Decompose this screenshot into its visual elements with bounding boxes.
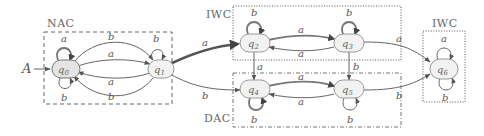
- state-q0: q0: [52, 60, 80, 78]
- svg-text:b: b: [108, 91, 114, 102]
- region-label-dac: DAC: [204, 112, 231, 125]
- svg-text:a: a: [396, 33, 402, 44]
- svg-text:b: b: [347, 114, 353, 125]
- region-label-nac: NAC: [47, 17, 75, 30]
- edges-cross: a b a b a b: [170, 33, 430, 101]
- state-q4: q4: [240, 80, 270, 98]
- svg-text:b: b: [346, 7, 352, 18]
- svg-text:a: a: [61, 33, 67, 44]
- initial-arrow: A: [21, 61, 50, 76]
- svg-text:b: b: [353, 61, 359, 72]
- svg-text:a: a: [108, 76, 114, 87]
- svg-text:b: b: [442, 92, 448, 103]
- state-q6: q6: [430, 59, 458, 79]
- svg-text:b: b: [251, 7, 257, 18]
- svg-text:b: b: [61, 92, 67, 103]
- svg-text:a: a: [108, 48, 114, 59]
- svg-text:a: a: [298, 71, 304, 82]
- svg-text:b: b: [251, 114, 257, 125]
- initial-marker-label: A: [21, 61, 31, 76]
- state-q5: q5: [334, 80, 364, 98]
- svg-text:a: a: [441, 33, 447, 44]
- automaton-diagram: NAC IWC DAC IWC A a b b a a b: [0, 0, 484, 136]
- region-label-iwc-right: IWC: [432, 17, 458, 30]
- svg-text:b: b: [202, 90, 208, 101]
- state-q3: q3: [334, 34, 364, 52]
- svg-text:a: a: [202, 37, 208, 48]
- svg-text:a: a: [257, 61, 263, 72]
- svg-text:b: b: [108, 31, 114, 42]
- svg-text:a: a: [298, 48, 304, 59]
- state-q2: q2: [240, 34, 270, 52]
- svg-text:a: a: [298, 96, 304, 107]
- svg-text:a: a: [298, 24, 304, 35]
- svg-text:b: b: [396, 90, 402, 101]
- region-label-iwc-top: IWC: [206, 8, 232, 21]
- state-q1: q1: [148, 60, 174, 78]
- svg-text:b: b: [153, 33, 159, 44]
